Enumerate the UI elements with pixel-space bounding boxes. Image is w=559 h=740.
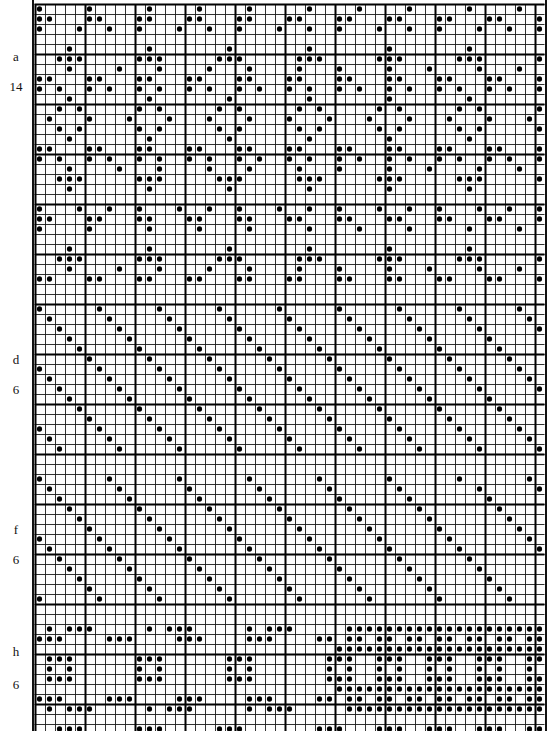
- section-repeat-d: 6: [0, 383, 32, 396]
- section-letter-f: f: [0, 523, 32, 536]
- pattern-chart: [32, 0, 547, 731]
- section-repeat-h: 6: [0, 678, 32, 691]
- left-margin: a14d6f6h6: [0, 0, 32, 740]
- section-letter-d: d: [0, 353, 32, 366]
- section-repeat-f: 6: [0, 553, 32, 566]
- section-repeat-a: 14: [0, 80, 32, 93]
- section-letter-h: h: [0, 645, 32, 658]
- pattern-grid-canvas: [34, 0, 545, 731]
- section-letter-a: a: [0, 50, 32, 63]
- chart-page: a14d6f6h6: [0, 0, 559, 740]
